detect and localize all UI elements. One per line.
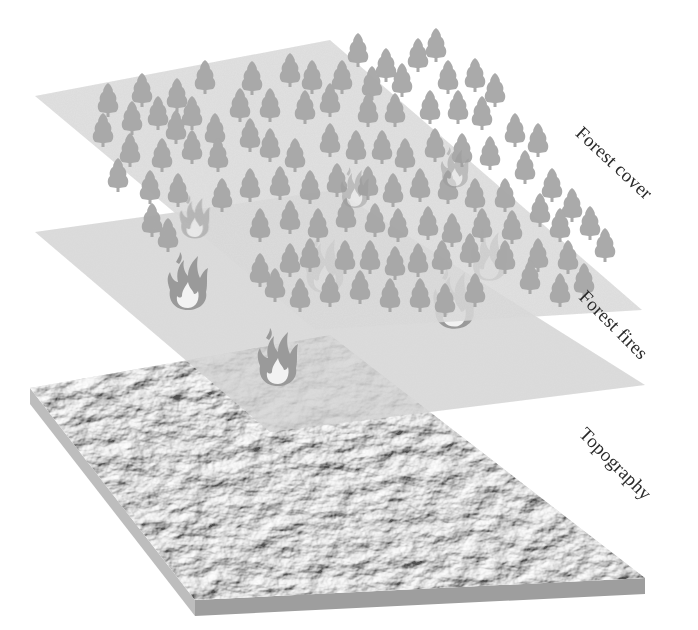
layer-stack-diagram: Forest cover Forest fires Topography bbox=[0, 0, 698, 630]
